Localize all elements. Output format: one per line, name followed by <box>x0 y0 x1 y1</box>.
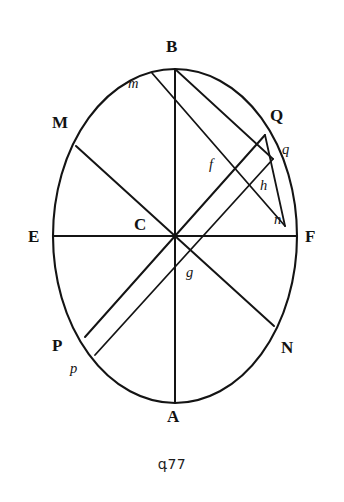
figure-container: B A E F M N P Q C m n p q f g h գ77 <box>0 0 344 502</box>
point-label-E: E <box>28 228 39 245</box>
point-label-P: P <box>52 337 62 354</box>
point-label-h: h <box>260 178 267 193</box>
point-label-C: C <box>134 216 146 233</box>
point-label-M: M <box>52 114 68 131</box>
figure-caption: գ77 <box>0 456 344 472</box>
point-label-p: p <box>70 361 77 376</box>
segment-chord-mn <box>152 73 285 226</box>
point-label-q: q <box>282 142 289 157</box>
point-label-n: n <box>274 212 281 227</box>
point-label-m: m <box>128 76 138 91</box>
point-label-B: B <box>166 38 177 55</box>
point-label-A: A <box>167 408 179 425</box>
point-label-f: f <box>209 157 213 172</box>
point-label-F: F <box>305 228 315 245</box>
point-label-N: N <box>281 339 293 356</box>
point-label-g: g <box>186 265 193 280</box>
geometry-diagram <box>0 0 344 502</box>
point-label-Q: Q <box>270 107 283 124</box>
